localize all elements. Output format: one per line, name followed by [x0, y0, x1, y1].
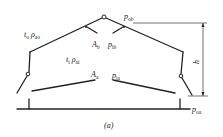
dim-arrow-bottom-icon: [202, 92, 205, 96]
apex-hinge: [102, 15, 106, 19]
window-left: [17, 76, 27, 93]
upper-flap-right: [113, 27, 123, 33]
label-p-ia: pia: [111, 71, 121, 81]
window-right: [182, 78, 192, 95]
label-inside-conditions: tiρai: [66, 55, 80, 65]
window-right-hinge: [179, 74, 183, 78]
window-left-hinge: [26, 72, 30, 76]
dim-arrow-top-icon: [202, 23, 205, 27]
label-p-ib: pib: [107, 40, 117, 50]
caption: (a): [104, 121, 114, 130]
label-A-b: Ab: [91, 40, 100, 50]
ventilation-diagram: toρao Ab pib pob tiρai Aa pia poa h (a): [0, 0, 223, 137]
upper-flap-left: [87, 27, 97, 33]
label-outside-conditions: toρao: [24, 30, 40, 40]
upper-flap-left-pivot: [85, 26, 87, 28]
lower-baffle-left: [32, 80, 95, 91]
wall-left: [29, 52, 30, 72]
wall-right: [181, 52, 183, 74]
label-h: h: [192, 60, 201, 64]
lower-baffle-right: [113, 80, 175, 93]
label-p-oa: poa: [191, 105, 202, 115]
label-p-ob: pob: [123, 12, 134, 22]
label-A-a: Aa: [90, 70, 99, 80]
upper-flap-right-pivot: [123, 26, 125, 28]
